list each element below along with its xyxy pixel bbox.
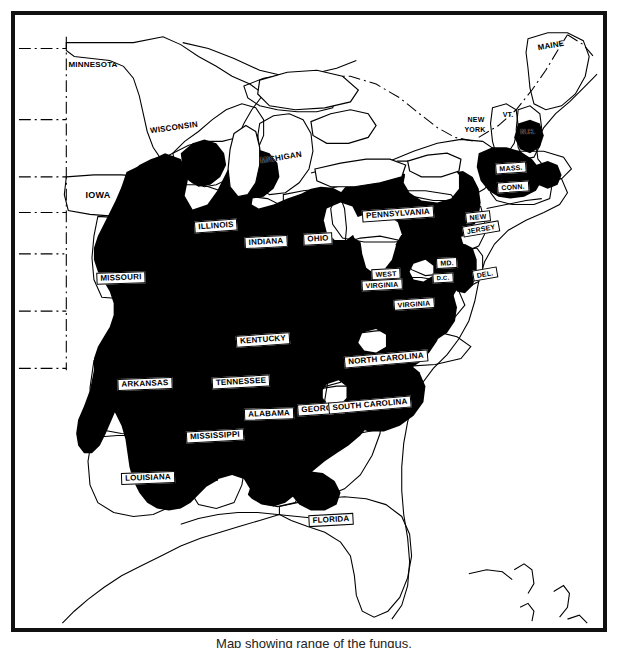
map-frame: MINNESOTAWISCONSINMICHIGANIOWAILLINOISIN… — [11, 11, 607, 632]
state-label-arkansas: ARKANSAS — [117, 377, 172, 391]
state-label-n-h: N.H. — [519, 127, 538, 136]
figure-caption: Map showing range of the fungus. — [0, 636, 628, 648]
state-label-vt: VT. — [501, 110, 516, 119]
state-label-md: MD. — [436, 257, 458, 269]
map-artwork — [15, 15, 603, 628]
state-label-virginia: VIRGINIA — [361, 278, 402, 291]
state-label-york: YORK — [462, 125, 487, 134]
state-label-mass: MASS. — [495, 161, 527, 174]
state-label-minnesota: MINNESOTA — [66, 60, 119, 70]
state-label-conn: CONN. — [497, 180, 529, 193]
state-label-ohio: OHIO — [303, 232, 333, 246]
state-label-d-c: D.C. — [432, 272, 453, 283]
state-label-florida: FLORIDA — [308, 513, 354, 527]
state-label-new: NEW — [466, 115, 487, 124]
state-label-louisiana: LOUISIANA — [121, 471, 175, 485]
map-figure: MINNESOTAWISCONSINMICHIGANIOWAILLINOISIN… — [0, 0, 628, 648]
state-label-alabama: ALABAMA — [244, 407, 294, 421]
state-label-iowa: IOWA — [84, 190, 113, 201]
state-label-indiana: INDIANA — [244, 235, 287, 249]
state-label-missouri: MISSOURI — [96, 271, 146, 285]
